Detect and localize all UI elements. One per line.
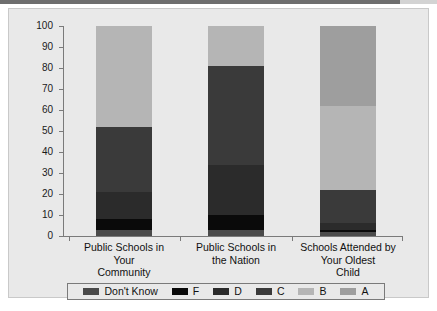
legend-item[interactable]: D [213,286,242,297]
category-label-line: Child [286,266,410,279]
bar-stack[interactable] [320,26,376,236]
category-label: Public Schools inYourCommunity [62,241,186,279]
y-tick-label: 100 [9,21,53,31]
y-tick-label: 10 [9,210,53,220]
y-tick-mark [59,215,63,216]
bar-segment-c[interactable] [320,190,376,224]
bar-segment-c[interactable] [96,127,152,192]
legend-label: F [193,286,199,297]
bar-segment-d[interactable] [320,223,376,229]
legend-swatch-icon [340,288,356,295]
bar-segment-f[interactable] [320,230,376,232]
y-tick-label: 90 [9,42,53,52]
legend-swatch-icon [83,288,99,295]
legend-swatch-icon [256,288,272,295]
top-banner-strip-right [400,0,437,4]
legend-label: B [319,286,326,297]
bar-segment-c[interactable] [208,66,264,165]
bar-segment-b[interactable] [96,26,152,127]
category-label-line: Community [62,266,186,279]
y-tick-mark [59,152,63,153]
legend-label: D [234,286,242,297]
legend-swatch-icon [298,288,314,295]
y-tick-mark [59,47,63,48]
category-label-line: the Nation [174,254,298,267]
y-tick-mark [59,236,63,237]
bar-segment-don-t-know[interactable] [320,232,376,236]
bar-segment-f[interactable] [208,215,264,230]
legend-label: A [361,286,368,297]
y-tick-label: 60 [9,105,53,115]
y-tick-label: 40 [9,147,53,157]
legend-item[interactable]: Don't Know [83,286,157,297]
category-label-line: Schools Attended by [286,241,410,254]
y-tick-mark [59,89,63,90]
legend-item[interactable]: F [172,286,199,297]
screenshot-root: 0102030405060708090100 Public Schools in… [0,0,437,311]
category-label: Public Schools inthe Nation [174,241,298,266]
legend-label: Don't Know [104,286,157,297]
chart-legend: Don't KnowFDCBA [67,283,385,300]
y-tick-label: 20 [9,189,53,199]
y-tick-label: 30 [9,168,53,178]
legend-item[interactable]: B [298,286,326,297]
bar-segment-b[interactable] [208,26,264,66]
bar-segment-a[interactable] [320,26,376,106]
y-tick-label: 70 [9,84,53,94]
top-banner-strip [0,0,437,4]
bar-segment-don-t-know[interactable] [96,230,152,236]
plot-area: 0102030405060708090100 Public Schools in… [9,9,430,299]
legend-label: C [277,286,285,297]
y-tick-label: 50 [9,126,53,136]
y-tick-mark [59,173,63,174]
bar-segment-don-t-know[interactable] [208,230,264,236]
y-tick-mark [59,131,63,132]
bar-segment-f[interactable] [96,219,152,230]
legend-item[interactable]: A [340,286,368,297]
legend-swatch-icon [213,288,229,295]
legend-swatch-icon [172,288,188,295]
category-label-line: Your [62,254,186,267]
category-label: Schools Attended byYour OldestChild [286,241,410,279]
category-label-line: Your Oldest [286,254,410,267]
chart-panel: 0102030405060708090100 Public Schools in… [8,8,429,298]
bar-segment-d[interactable] [96,192,152,219]
bar-segment-d[interactable] [208,165,264,215]
category-label-line: Public Schools in [62,241,186,254]
bar-segment-b[interactable] [320,106,376,190]
category-label-line: Public Schools in [174,241,298,254]
y-tick-mark [59,68,63,69]
bar-stack[interactable] [96,26,152,236]
y-tick-mark [59,110,63,111]
y-tick-label: 80 [9,63,53,73]
bar-stack[interactable] [208,26,264,236]
legend-item[interactable]: C [256,286,285,297]
x-axis-line [63,236,403,237]
y-tick-mark [59,26,63,27]
y-tick-label: 0 [9,231,53,241]
y-tick-mark [59,194,63,195]
